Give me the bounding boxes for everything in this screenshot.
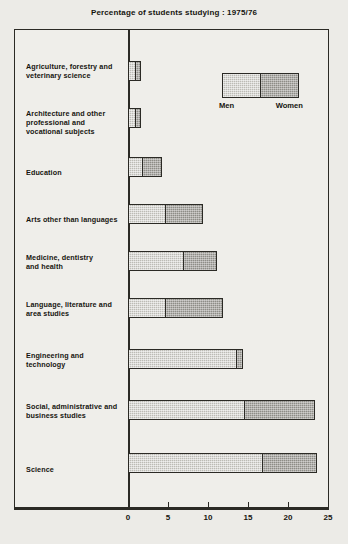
bar-row	[128, 157, 162, 177]
x-axis-tick-label-20: 20	[284, 513, 293, 522]
bar-segment-women	[183, 251, 217, 271]
bar-row	[128, 204, 203, 224]
bar-row	[128, 453, 317, 473]
category-label-2: Education	[26, 168, 130, 177]
bar-segment-women	[262, 453, 317, 473]
bar-segment-men	[128, 400, 246, 420]
bar-segment-women	[236, 349, 244, 369]
legend-swatch-women	[260, 73, 299, 98]
bar-segment-women	[142, 157, 162, 177]
bar-segment-women	[165, 298, 223, 318]
legend-swatches	[222, 73, 300, 98]
bar-segment-women	[244, 400, 315, 420]
x-axis: 0510152025	[14, 508, 329, 510]
legend-swatch-men	[222, 73, 261, 98]
x-axis-line	[14, 508, 329, 510]
bar-row	[128, 251, 217, 271]
x-axis-tick-label-15: 15	[244, 513, 253, 522]
bar-row	[128, 61, 141, 81]
x-axis-tick-label-0: 0	[126, 513, 130, 522]
x-axis-tick-0	[128, 502, 129, 508]
category-label-1: Architecture and otherprofessional andvo…	[26, 109, 130, 137]
category-label-6: Engineering andtechnology	[26, 351, 130, 369]
bar-row	[128, 400, 315, 420]
category-label-column: Agriculture, forestry andveterinary scie…	[14, 29, 128, 508]
bar-segment-women	[135, 108, 141, 128]
x-axis-tick-label-5: 5	[166, 513, 170, 522]
category-label-5: Language, literature andarea studies	[26, 300, 130, 318]
chart-title: Percentage of students studying : 1975/7…	[0, 8, 348, 17]
category-label-3: Arts other than languages	[26, 215, 130, 224]
x-axis-tick-10	[208, 502, 209, 508]
category-label-8: Science	[26, 465, 130, 474]
legend: Men Women	[222, 73, 300, 110]
legend-label-women: Women	[276, 101, 303, 110]
bar-segment-women	[135, 61, 141, 81]
legend-label-men: Men	[219, 101, 234, 110]
bar-segment-men	[128, 298, 166, 318]
bar-segment-women	[165, 204, 203, 224]
bar-segment-men	[128, 453, 263, 473]
category-label-7: Social, administrative andbusiness studi…	[26, 402, 130, 420]
legend-labels: Men Women	[219, 101, 303, 110]
x-axis-tick-label-25: 25	[324, 513, 333, 522]
bar-row	[128, 349, 243, 369]
bar-row	[128, 298, 223, 318]
bar-segment-men	[128, 157, 143, 177]
x-axis-tick-5	[168, 502, 169, 508]
x-axis-tick-15	[248, 502, 249, 508]
chart-container: Percentage of students studying : 1975/7…	[0, 0, 348, 544]
bar-segment-men	[128, 349, 237, 369]
x-axis-tick-25	[328, 502, 329, 508]
x-axis-tick-20	[288, 502, 289, 508]
bar-segment-men	[128, 251, 184, 271]
x-axis-tick-label-10: 10	[204, 513, 213, 522]
category-label-0: Agriculture, forestry andveterinary scie…	[26, 62, 130, 80]
bar-row	[128, 108, 141, 128]
category-label-4: Medicine, dentistryand health	[26, 253, 130, 271]
bar-segment-men	[128, 204, 166, 224]
